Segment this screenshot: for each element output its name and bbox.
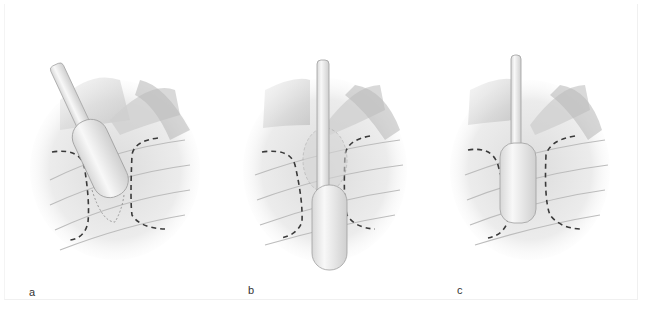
illustration-b <box>215 0 430 309</box>
panel-a: a <box>0 0 215 309</box>
illustration-c <box>430 0 645 309</box>
illustration-a <box>0 0 215 309</box>
panel-b: b <box>215 0 430 309</box>
panel-label-a: a <box>29 286 35 298</box>
panel-label-c: c <box>457 284 463 296</box>
panel-c: c <box>430 0 645 309</box>
panel-label-b: b <box>248 284 254 296</box>
